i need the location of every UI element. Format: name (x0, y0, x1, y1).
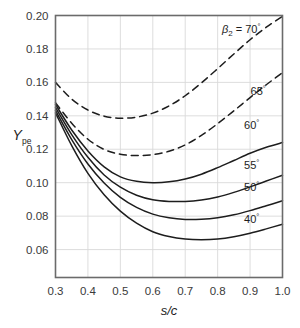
y-tick-label: 0.14 (26, 110, 49, 122)
x-tick-label: 0.7 (177, 285, 193, 297)
y-tick-label: 0.08 (26, 210, 48, 222)
x-tick-label: 1.0 (275, 285, 291, 297)
y-tick-label: 0.18 (26, 43, 48, 55)
y-tick-label: 0.10 (26, 177, 48, 189)
x-tick-label: 0.4 (80, 285, 97, 297)
x-tick-label: 0.8 (210, 285, 226, 297)
x-tick-label: 0.3 (48, 285, 64, 297)
y-tick-label: 0.06 (26, 244, 48, 256)
y-axis-title-sub: pe (22, 136, 32, 146)
x-tick-label: 0.6 (145, 285, 161, 297)
x-tick-label: 0.9 (242, 285, 258, 297)
y-tick-label: 0.16 (26, 76, 48, 88)
x-axis-title: s/c (161, 303, 178, 318)
chart-figure: 0.30.40.50.60.70.80.91.0 0.060.080.100.1… (0, 0, 300, 328)
plot-svg: 0.30.40.50.60.70.80.91.0 0.060.080.100.1… (0, 0, 300, 328)
x-tick-label: 0.5 (112, 285, 128, 297)
y-tick-label: 0.20 (26, 10, 48, 22)
